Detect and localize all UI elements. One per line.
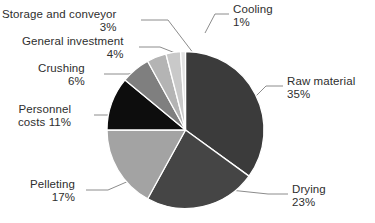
- slice-label-personnel-costs-name2: costs: [18, 116, 45, 128]
- slice-label-pelleting-pct: 17%: [30, 191, 75, 204]
- slice-label-personnel-costs-pct: 11%: [49, 116, 71, 128]
- slice-label-storage-and-conveyor: Storage and conveyor 3%: [2, 8, 117, 34]
- slice-label-raw-material-pct: 35%: [287, 88, 355, 101]
- leader-line-drying: [230, 190, 288, 194]
- slice-label-drying-name: Drying: [292, 183, 326, 196]
- slice-label-drying-pct: 23%: [292, 196, 326, 209]
- slice-label-storage-and-conveyor-pct: 3%: [2, 21, 117, 34]
- slice-label-crushing-pct: 6%: [38, 75, 85, 88]
- leader-line-cooling: [205, 14, 229, 33]
- pie-slices-group: [107, 51, 264, 208]
- slice-label-personnel-costs-line2: costs 11%: [18, 116, 71, 129]
- slice-label-general-investment: General investment 4%: [22, 35, 124, 61]
- slice-label-pelleting: Pelleting 17%: [30, 178, 75, 204]
- slice-label-crushing-name: Crushing: [38, 62, 85, 75]
- pie-chart-figure: Storage and conveyor 3% General investme…: [0, 0, 375, 223]
- slice-label-raw-material-name: Raw material: [287, 75, 355, 88]
- slice-label-cooling-pct: 1%: [233, 16, 273, 29]
- slice-label-cooling-name: Cooling: [233, 3, 273, 16]
- slice-label-cooling: Cooling 1%: [233, 3, 273, 29]
- slice-label-pelleting-name: Pelleting: [30, 178, 75, 191]
- slice-label-crushing: Crushing 6%: [38, 62, 85, 88]
- slice-label-general-investment-pct: 4%: [22, 48, 124, 61]
- slice-label-drying: Drying 23%: [292, 183, 326, 209]
- slice-label-general-investment-name: General investment: [22, 35, 124, 48]
- slice-label-personnel-costs: Personnel costs 11%: [18, 103, 71, 129]
- slice-label-storage-and-conveyor-name: Storage and conveyor: [2, 8, 117, 21]
- slice-label-raw-material: Raw material 35%: [287, 75, 355, 101]
- slice-label-personnel-costs-name: Personnel: [18, 103, 71, 116]
